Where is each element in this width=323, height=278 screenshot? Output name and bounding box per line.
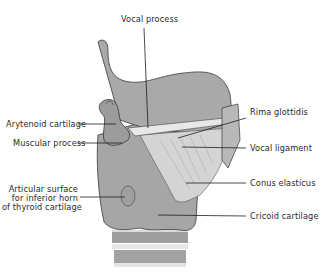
larynx-diagram: Vocal process Arytenoid cartilage Muscul…: [0, 0, 323, 278]
label-muscular-process: Muscular process: [13, 138, 86, 148]
trachea-rings: [112, 230, 188, 267]
label-arytenoid-cartilage: Arytenoid cartilage: [6, 119, 86, 129]
label-vocal-ligament: Vocal ligament: [250, 143, 312, 153]
label-articular-surface-line3: of thyroid cartilage: [2, 202, 78, 212]
label-conus-elasticus: Conus elasticus: [250, 178, 316, 188]
label-rima-glottidis: Rima glottidis: [250, 107, 308, 117]
articular-surface-shape: [121, 186, 135, 206]
label-vocal-process: Vocal process: [121, 14, 178, 24]
label-cricoid-cartilage: Cricoid cartilage: [250, 211, 319, 221]
thyroid-edge-shape: [222, 104, 240, 168]
